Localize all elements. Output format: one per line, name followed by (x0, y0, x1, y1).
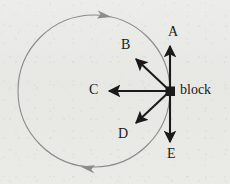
vector-a-label: A (168, 25, 178, 39)
block-label: block (180, 83, 211, 97)
path-direction-arrow-top (97, 10, 112, 18)
vector-d-label: D (118, 127, 128, 141)
diagram-canvas: A B C D E block (0, 0, 230, 184)
path-direction-arrow-bottom (80, 165, 95, 173)
vector-b-label: B (121, 38, 130, 52)
block-square (166, 87, 176, 97)
vector-e-label: E (167, 147, 176, 161)
vector-c-label: C (89, 83, 98, 97)
